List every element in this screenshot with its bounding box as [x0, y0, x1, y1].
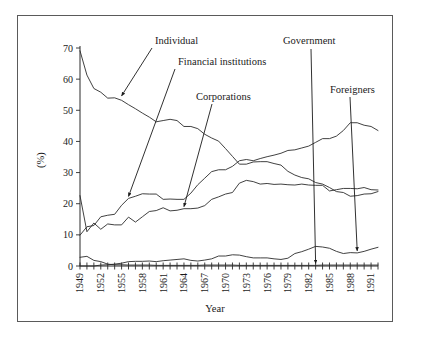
annotation-arrow-government [311, 49, 316, 263]
x-tick-label: 1964 [178, 273, 189, 293]
annotation-label-corporations: Corporations [196, 91, 251, 102]
y-tick-label: 0 [68, 261, 73, 272]
x-tick-label: 1949 [74, 273, 85, 293]
series-line-foreigners [80, 246, 378, 266]
x-tick-label: 1967 [199, 273, 210, 293]
series-line-government [80, 256, 378, 265]
x-tick-label: 1955 [116, 273, 127, 293]
x-axis-title: Year [205, 303, 225, 314]
series-line-corporations [80, 180, 378, 231]
annotation-arrow-financial-institutions [129, 69, 175, 196]
x-tick-label: 1988 [345, 273, 356, 293]
x-tick-label: 1973 [241, 273, 252, 293]
annotation-arrow-individual [122, 48, 152, 96]
series-line-financial-institutions [80, 123, 378, 235]
x-tick-label: 1961 [158, 273, 169, 293]
x-tick-label: 1976 [262, 273, 273, 293]
annotation-label-financial-institutions: Financial institutions [178, 56, 266, 67]
y-tick-label: 30 [63, 167, 73, 178]
annotation-label-government: Government [283, 35, 336, 46]
annotation-arrow-foreigners [350, 97, 357, 251]
annotation-label-foreigners: Foreigners [330, 84, 375, 95]
annotation-arrow-corporations [184, 104, 212, 207]
y-tick-label: 10 [63, 229, 73, 240]
annotation-label-individual: Individual [155, 35, 198, 46]
y-axis-title: (%) [35, 152, 47, 168]
x-tick-label: 1991 [365, 273, 376, 293]
x-tick-label: 1952 [95, 273, 106, 293]
annotations: IndividualFinancial institutionsCorporat… [122, 35, 375, 263]
x-tick-label: 1970 [220, 273, 231, 293]
x-tick-label: 1982 [303, 273, 314, 293]
line-chart: 010203040506070 194919521955195819611964… [0, 0, 422, 342]
x-axis: 1949195219551958196119641967197019731976… [74, 263, 378, 294]
y-tick-label: 50 [63, 105, 73, 116]
y-tick-label: 70 [63, 43, 73, 54]
y-tick-label: 60 [63, 74, 73, 85]
figure-root: 010203040506070 194919521955195819611964… [0, 0, 422, 342]
y-tick-label: 40 [63, 136, 73, 147]
series-line-individual [80, 51, 378, 196]
y-tick-label: 20 [63, 198, 73, 209]
x-tick-label: 1958 [137, 273, 148, 293]
x-tick-label: 1985 [324, 273, 335, 293]
x-tick-label: 1979 [282, 273, 293, 293]
y-axis: 010203040506070 [63, 43, 80, 272]
